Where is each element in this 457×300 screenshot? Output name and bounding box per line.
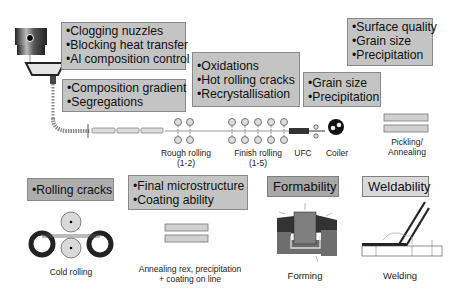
pickling-text: Pickling/ bbox=[382, 137, 432, 147]
annealing-line1-text: Annealing rex, precipitation bbox=[126, 264, 254, 274]
issue-item: •Coating ability bbox=[133, 193, 243, 207]
issue-item: •Recrystallisation bbox=[197, 87, 295, 101]
ufc-icon bbox=[289, 125, 325, 138]
issue-item: •Surface quality bbox=[352, 20, 428, 34]
finish-rolling-label: Finish rolling (1-5) bbox=[226, 148, 290, 168]
annealing-strips-icon bbox=[165, 224, 208, 242]
issue-item: •Blocking heat transfer bbox=[66, 38, 181, 52]
coiler-icon bbox=[328, 119, 344, 135]
issue-item: •Precipitation bbox=[352, 48, 428, 62]
tundish-icon bbox=[26, 63, 64, 75]
issue-item: •Hot rolling cracks bbox=[197, 73, 295, 87]
cold-rolling-label: Cold rolling bbox=[46, 267, 96, 277]
pickling-issues-box: •Surface quality •Grain size •Precipitat… bbox=[347, 18, 433, 66]
rough-rolling-text: Rough rolling bbox=[156, 148, 216, 158]
coiler-label: Coiler bbox=[322, 148, 352, 158]
welding-label: Welding bbox=[380, 270, 420, 281]
issue-item: •Clogging nuzzles bbox=[66, 24, 181, 38]
annealing-issues-box: •Final microstructure •Coating ability bbox=[128, 175, 248, 210]
formability-heading: Formability bbox=[267, 176, 339, 197]
weldability-heading: Weldability bbox=[362, 176, 429, 197]
issue-item: •Segregations bbox=[67, 95, 181, 109]
annealing-text: Annealing bbox=[382, 147, 432, 157]
annealing-line2-text: + coating on line bbox=[126, 274, 254, 284]
finish-rolling-stands-text: (1-5) bbox=[226, 158, 290, 168]
hot-rolling-issues-box: •Oxidations •Hot rolling cracks •Recryst… bbox=[192, 52, 300, 107]
finish-rolling-text: Finish rolling bbox=[226, 148, 290, 158]
ufc-label: UFC bbox=[291, 148, 315, 158]
pickling-strips-icon bbox=[384, 114, 428, 132]
issue-item: •Rolling cracks bbox=[32, 183, 109, 197]
casting-issues-box: •Composition gradient •Segregations bbox=[62, 79, 186, 112]
cold-rolling-icon bbox=[31, 212, 111, 258]
cooling-issues-box: •Grain size •Precipitation bbox=[303, 72, 381, 107]
rough-rolling-label: Rough rolling (1-2) bbox=[156, 148, 216, 168]
rough-rolling-stands-text: (1-2) bbox=[156, 158, 216, 168]
issue-item: •Precipitation bbox=[308, 90, 376, 104]
issue-item: •Final microstructure bbox=[133, 179, 243, 193]
pickling-annealing-label: Pickling/ Annealing bbox=[382, 137, 432, 157]
welding-illustration-icon bbox=[362, 202, 442, 256]
tundish-issues-box: •Clogging nuzzles •Blocking heat transfe… bbox=[61, 22, 186, 70]
forming-label: Forming bbox=[285, 270, 325, 281]
annealing-label: Annealing rex, precipitation + coating o… bbox=[126, 264, 254, 284]
issue-item: •Grain size bbox=[352, 34, 428, 48]
cold-rolling-issues-box: •Rolling cracks •Rolling cracks bbox=[27, 178, 114, 201]
forming-illustration-icon bbox=[277, 203, 337, 262]
issue-item: •Grain size bbox=[308, 76, 376, 90]
issue-item: •Oxidations bbox=[197, 59, 295, 73]
slabs-icon bbox=[92, 128, 163, 133]
issue-item: •Al composition control bbox=[66, 52, 181, 66]
issue-item: •Composition gradient bbox=[67, 81, 181, 95]
ladle-icon bbox=[15, 28, 47, 63]
